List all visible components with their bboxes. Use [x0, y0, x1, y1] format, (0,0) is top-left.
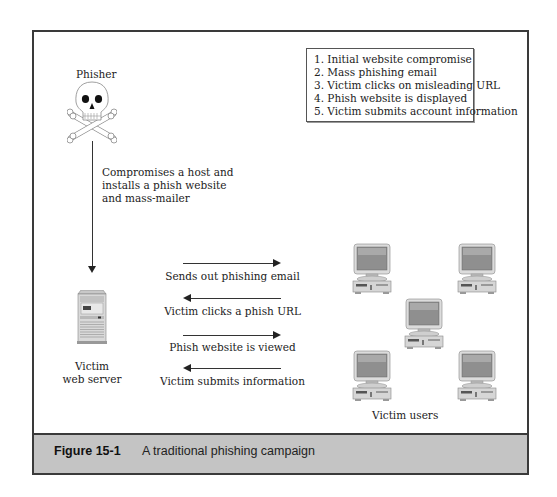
arrow-down-icon — [88, 266, 96, 273]
flow-label: Sends out phishing email — [160, 270, 305, 283]
legend-item: 1. Initial website compromise — [314, 53, 473, 66]
desktop-computer-icon — [457, 350, 497, 402]
desktop-computer-icon — [457, 243, 497, 295]
server-label-line1: Victim — [62, 360, 122, 373]
flow-arrow-left — [183, 364, 281, 372]
arrow-right-icon — [273, 259, 281, 267]
server-tower-icon — [75, 290, 109, 344]
legend-item: 4. Phish website is displayed — [314, 92, 473, 105]
compromise-text-line1: Compromises a host and — [102, 166, 233, 179]
flow-label: Victim submits information — [160, 375, 305, 388]
flow-label: Phish website is viewed — [160, 341, 305, 354]
figure-caption-bar: Figure 15-1 A traditional phishing campa… — [32, 433, 529, 475]
legend-item: 5. Victim submits account information — [314, 105, 473, 118]
desktop-computer-icon — [352, 350, 392, 402]
figure-caption: A traditional phishing campaign — [142, 444, 315, 458]
flow-arrow-right — [183, 331, 281, 339]
arrow-left-icon — [183, 294, 191, 302]
compromise-arrow-line — [92, 141, 93, 267]
arrow-left-icon — [183, 364, 191, 372]
flow-arrow-left — [183, 294, 281, 302]
skull-crossbones-icon — [67, 80, 117, 144]
desktop-computer-icon — [404, 298, 444, 350]
users-label: Victim users — [372, 409, 438, 422]
figure-number: Figure 15-1 — [54, 444, 121, 458]
legend-box: 1. Initial website compromise 2. Mass ph… — [306, 48, 474, 122]
compromise-text-line2: installs a phish website — [102, 179, 226, 192]
desktop-computer-icon — [352, 243, 392, 295]
arrow-right-icon — [273, 331, 281, 339]
legend-item: 3. Victim clicks on misleading URL — [314, 79, 473, 92]
server-label-line2: web server — [52, 373, 132, 386]
flow-arrow-right — [183, 259, 281, 267]
compromise-text-line3: and mass-mailer — [102, 192, 190, 205]
legend-item: 2. Mass phishing email — [314, 66, 473, 79]
flow-label: Victim clicks a phish URL — [160, 305, 305, 318]
